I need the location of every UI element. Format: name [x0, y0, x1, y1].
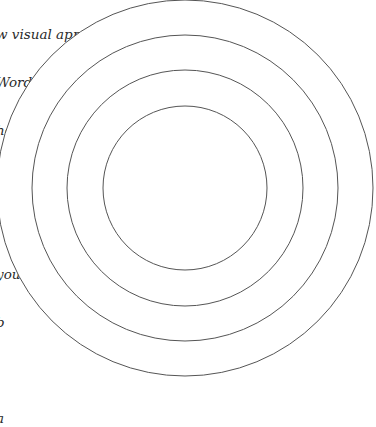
text-line-9: a	[0, 410, 146, 426]
ring-1	[0, 0, 373, 376]
